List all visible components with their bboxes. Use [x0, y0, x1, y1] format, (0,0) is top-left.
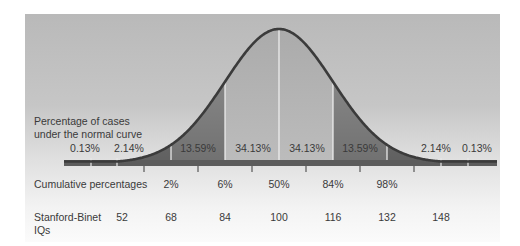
region-label-2: 2.14% [114, 142, 144, 154]
sd-dividers [117, 30, 441, 163]
cases-caption-line2: under the normal curve [34, 128, 142, 141]
cases-caption: Percentage of cases under the normal cur… [34, 115, 142, 141]
axis-ticks [144, 166, 414, 172]
region-label-4: 34.13% [235, 142, 271, 154]
iq-value-100: 100 [270, 211, 288, 223]
region-label-3: 13.59% [180, 142, 216, 154]
region-label-6: 13.59% [342, 142, 378, 154]
cumulative-value-3: 50% [268, 178, 289, 190]
iq-value-52: 52 [116, 211, 128, 223]
iq-title-line1: Stanford-Binet [34, 211, 101, 224]
iq-value-68: 68 [165, 211, 177, 223]
iq-title: Stanford-Binet IQs [34, 211, 101, 237]
iq-title-line2: IQs [34, 224, 101, 237]
cumulative-value-5: 98% [376, 178, 397, 190]
region-label-7: 2.14% [421, 142, 451, 154]
normal-curve-figure: Percentage of cases under the normal cur… [0, 0, 520, 246]
region-label-5: 34.13% [289, 142, 325, 154]
iq-value-132: 132 [378, 211, 396, 223]
iq-value-116: 116 [325, 211, 342, 223]
cumulative-value-1: 2% [163, 178, 178, 190]
cumulative-value-2: 6% [217, 178, 232, 190]
cumulative-title: Cumulative percentages [34, 178, 147, 190]
iq-value-148: 148 [432, 211, 450, 223]
cumulative-value-4: 84% [322, 178, 343, 190]
cases-caption-line1: Percentage of cases [34, 115, 142, 128]
iq-value-84: 84 [219, 211, 231, 223]
region-label-1: 0.13% [70, 142, 100, 154]
region-label-8: 0.13% [462, 142, 492, 154]
